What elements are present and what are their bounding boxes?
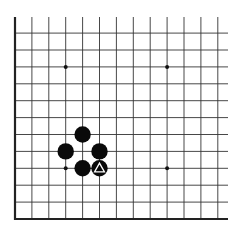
black-stone[interactable] [74, 160, 90, 176]
star-point-icon [64, 65, 68, 69]
black-stone[interactable] [57, 143, 73, 159]
star-point-icon [64, 166, 68, 170]
black-stone[interactable] [91, 160, 107, 176]
board-grid [14, 17, 228, 220]
go-board[interactable] [0, 0, 243, 230]
black-stone[interactable] [91, 143, 107, 159]
black-stone[interactable] [74, 126, 90, 142]
star-point-icon [165, 65, 169, 69]
star-point-icon [165, 166, 169, 170]
